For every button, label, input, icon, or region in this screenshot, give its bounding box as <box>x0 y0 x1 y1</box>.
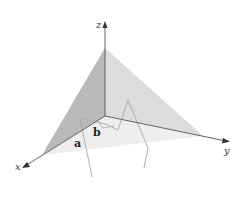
plane-diagram: z x y a b <box>0 0 250 204</box>
x-axis-label: x <box>15 161 21 172</box>
diagram-canvas: z x y a b <box>0 0 250 204</box>
z-axis-arrow-icon <box>103 21 108 28</box>
point-b-label: b <box>93 126 101 139</box>
y-axis-arrow-icon <box>222 138 230 144</box>
z-axis-label: z <box>95 19 102 30</box>
y-axis-label: y <box>223 145 230 156</box>
point-a-label: a <box>74 137 81 150</box>
x-axis-arrow-icon <box>22 162 30 168</box>
